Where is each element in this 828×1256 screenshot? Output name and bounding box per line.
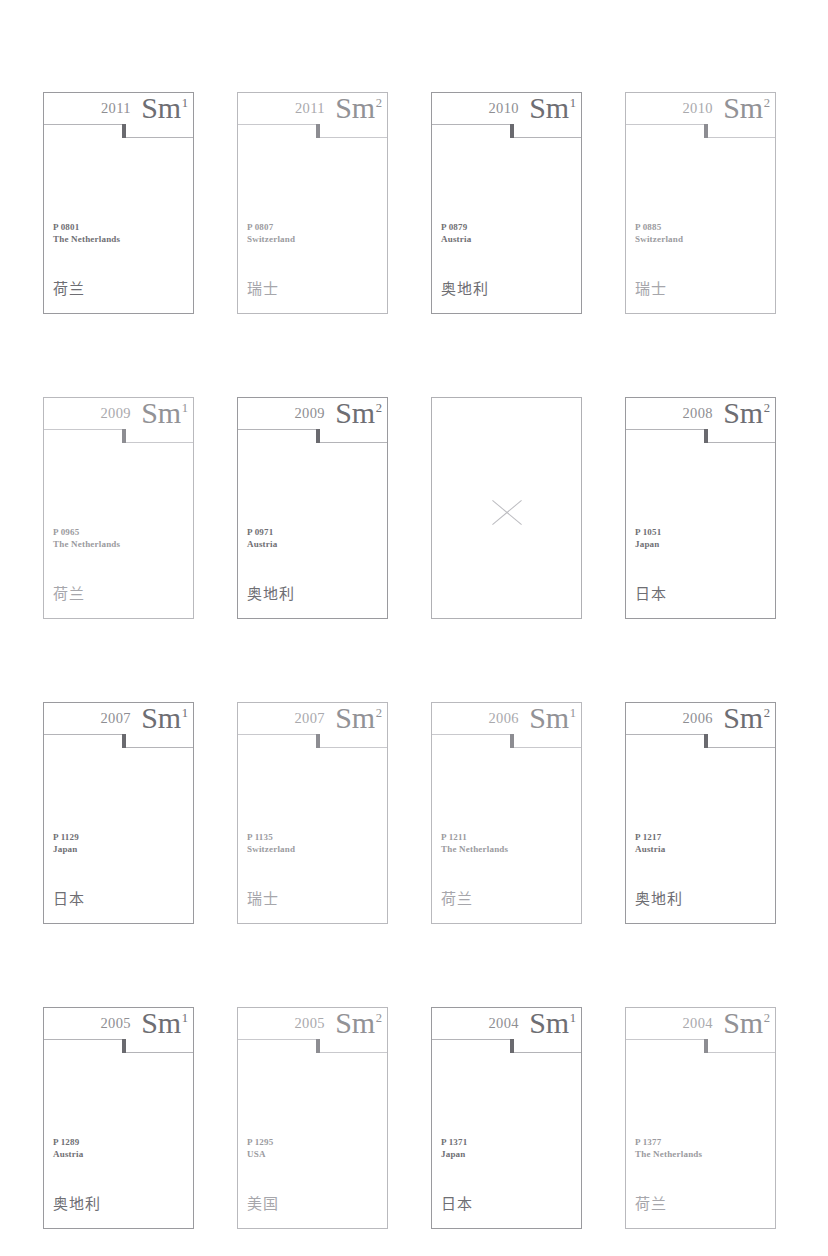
card-header: 2005Sm1 [44,1008,193,1066]
card-country-cn: 荷兰 [53,281,85,298]
stamp-card[interactable]: 2006Sm1P 1211The Netherlands荷兰 [431,702,582,924]
catalog-sheet: 2011Sm1P 0801The Netherlands荷兰2011Sm2P 0… [0,0,828,1256]
header-rule-left [238,1039,317,1040]
header-rule-left [432,1039,511,1040]
card-header: 2009Sm2 [238,398,387,456]
card-body: P 1129Japan [53,831,185,855]
card-mark-superscript: 2 [376,706,382,720]
header-rule-right [320,442,387,443]
card-header: 2008Sm2 [626,398,775,456]
header-rule-left [44,124,123,125]
card-mark-label: Sm [141,702,181,734]
cross-out-icon [488,493,526,531]
card-mark-label: Sm [335,397,375,429]
header-rule-left [238,429,317,430]
card-mark: Sm1 [529,93,576,123]
card-year: 2010 [488,100,519,117]
stamp-card-empty[interactable] [431,397,582,619]
header-rule-right [320,137,387,138]
card-country: The Netherlands [635,1148,767,1160]
card-mark: Sm2 [335,93,382,123]
card-mark-superscript: 2 [376,96,382,110]
stamp-card[interactable]: 2010Sm1P 0879Austria奥地利 [431,92,582,314]
header-tick-mark [122,429,126,443]
header-rule-left [626,1039,705,1040]
header-tick-mark [704,124,708,138]
card-header: 2007Sm2 [238,703,387,761]
stamp-card[interactable]: 2009Sm1P 0965The Netherlands荷兰 [43,397,194,619]
card-year: 2010 [682,100,713,117]
card-country: Switzerland [635,233,767,245]
card-header: 2009Sm1 [44,398,193,456]
card-code: P 0971 [247,526,379,538]
stamp-card[interactable]: 2004Sm1P 1371Japan日本 [431,1007,582,1229]
card-year: 2004 [488,1015,519,1032]
header-rule-right [708,137,775,138]
card-mark-label: Sm [723,397,763,429]
stamp-card[interactable]: 2011Sm1P 0801The Netherlands荷兰 [43,92,194,314]
stamp-card[interactable]: 2005Sm2P 1295USA美国 [237,1007,388,1229]
stamp-card[interactable]: 2007Sm2P 1135Switzerland瑞士 [237,702,388,924]
card-mark-label: Sm [141,92,181,124]
card-body: P 0885Switzerland [635,221,767,245]
card-mark-superscript: 1 [570,706,576,720]
card-code: P 0885 [635,221,767,233]
card-body: P 0801The Netherlands [53,221,185,245]
card-country-cn: 奥地利 [635,891,683,908]
card-country-cn: 荷兰 [441,891,473,908]
card-body: P 0807Switzerland [247,221,379,245]
header-tick-mark [510,734,514,748]
card-country-cn: 荷兰 [53,586,85,603]
card-body: P 1289Austria [53,1136,185,1160]
card-country: USA [247,1148,379,1160]
card-country: Austria [53,1148,185,1160]
card-body: P 1135Switzerland [247,831,379,855]
header-rule-right [514,747,581,748]
header-rule-right [514,1052,581,1053]
header-rule-left [238,124,317,125]
card-country-cn: 瑞士 [247,891,279,908]
card-country-cn: 奥地利 [441,281,489,298]
card-code: P 1217 [635,831,767,843]
header-tick-mark [122,124,126,138]
card-body: P 0879Austria [441,221,573,245]
card-code: P 1135 [247,831,379,843]
card-year: 2008 [682,405,713,422]
card-mark-label: Sm [723,92,763,124]
card-mark: Sm2 [335,1008,382,1038]
card-mark-superscript: 2 [376,401,382,415]
stamp-card[interactable]: 2004Sm2P 1377The Netherlands荷兰 [625,1007,776,1229]
card-header: 2005Sm2 [238,1008,387,1066]
card-country-cn: 荷兰 [635,1196,667,1213]
card-header: 2004Sm1 [432,1008,581,1066]
card-country: Austria [247,538,379,550]
card-mark: Sm2 [723,703,770,733]
stamp-card[interactable]: 2009Sm2P 0971Austria奥地利 [237,397,388,619]
stamp-card[interactable]: 2005Sm1P 1289Austria奥地利 [43,1007,194,1229]
stamp-card[interactable]: 2008Sm2P 1051Japan日本 [625,397,776,619]
card-mark: Sm2 [723,1008,770,1038]
stamp-card[interactable]: 2007Sm1P 1129Japan日本 [43,702,194,924]
header-rule-right [320,1052,387,1053]
card-year: 2005 [100,1015,131,1032]
stamp-card[interactable]: 2006Sm2P 1217Austria奥地利 [625,702,776,924]
card-mark-label: Sm [335,702,375,734]
card-mark: Sm2 [335,703,382,733]
card-mark: Sm1 [141,93,188,123]
card-country: The Netherlands [53,538,185,550]
stamp-card[interactable]: 2011Sm2P 0807Switzerland瑞士 [237,92,388,314]
card-mark-label: Sm [529,1007,569,1039]
card-year: 2006 [488,710,519,727]
card-country: Switzerland [247,843,379,855]
header-rule-left [44,429,123,430]
header-rule-left [44,734,123,735]
header-rule-left [626,124,705,125]
card-header: 2010Sm1 [432,93,581,151]
card-mark-label: Sm [335,92,375,124]
card-mark-superscript: 1 [570,1011,576,1025]
header-tick-mark [122,1039,126,1053]
stamp-card[interactable]: 2010Sm2P 0885Switzerland瑞士 [625,92,776,314]
card-country-cn: 日本 [441,1196,473,1213]
card-header: 2011Sm2 [238,93,387,151]
card-mark-label: Sm [529,92,569,124]
